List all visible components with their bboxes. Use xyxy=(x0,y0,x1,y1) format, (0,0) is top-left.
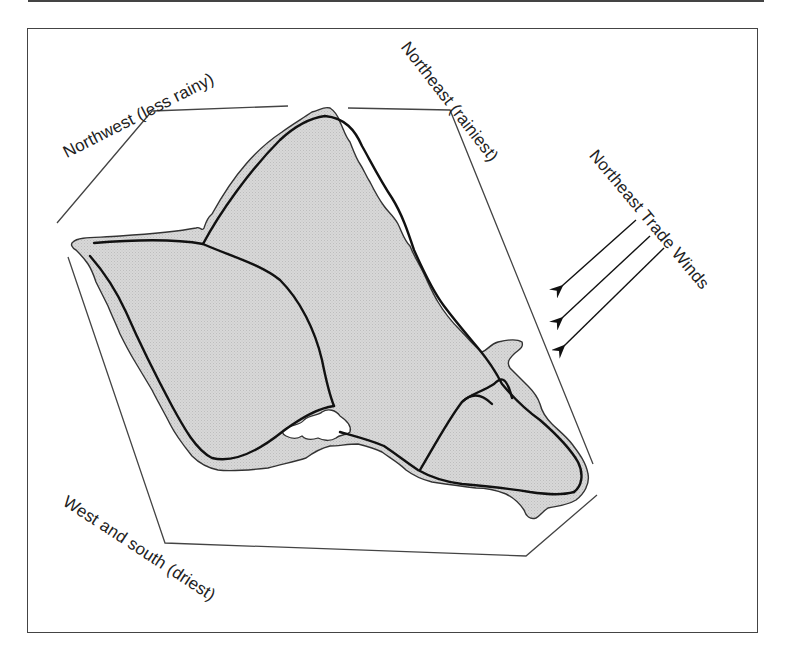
island-landmass xyxy=(72,107,589,518)
trade-wind-arrows xyxy=(562,220,664,346)
arrow-icon xyxy=(562,220,636,286)
arrow-icon xyxy=(564,248,664,346)
island-map xyxy=(0,0,785,655)
